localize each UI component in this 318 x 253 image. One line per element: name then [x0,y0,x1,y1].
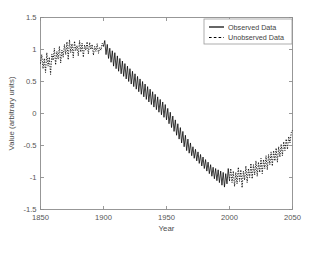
y-tick-label: -1.5 [23,205,36,214]
chart-figure: 18501900195020002050-1.5-1-0.500.511.5Ye… [0,0,318,253]
x-tick-label: 2000 [221,213,238,222]
x-tick-label: 1950 [158,213,175,222]
legend-label: Observed Data [228,23,276,32]
y-tick-label: 0.5 [26,77,37,86]
x-tick-label: 2050 [284,213,301,222]
y-tick-label: -1 [30,173,37,182]
x-axis-title: Year [159,224,175,233]
y-tick-label: 0 [32,109,36,118]
y-axis-title: Value (arbitrary units) [7,76,16,150]
y-tick-label: 1 [32,45,36,54]
chart-canvas: 18501900195020002050-1.5-1-0.500.511.5Ye… [0,0,318,253]
x-tick-label: 1850 [32,213,49,222]
y-tick-label: -0.5 [23,141,36,150]
x-tick-label: 1900 [95,213,112,222]
legend-label: Unobserved Data [228,33,284,42]
y-tick-label: 1.5 [26,13,37,22]
